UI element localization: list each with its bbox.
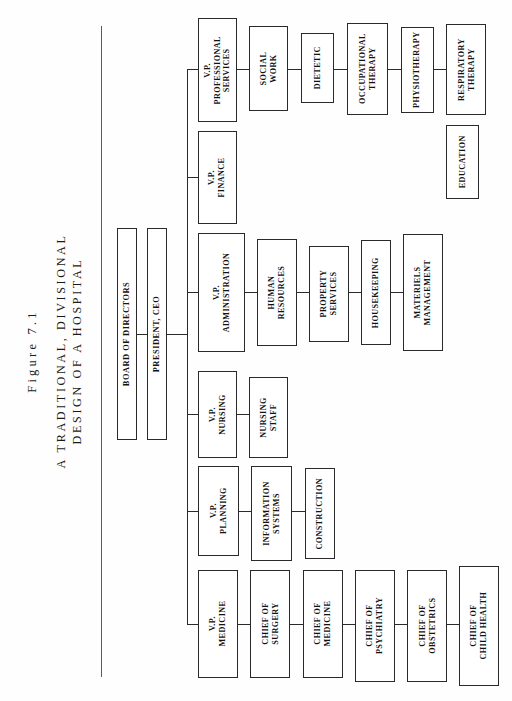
node-chief-of-surgery[interactable]: CHIEF OF SURGERY: [250, 570, 290, 678]
connector-administration-human-resources: [245, 292, 257, 293]
connector-spine-vp-professional: [187, 69, 198, 70]
connector-chief-medicine-chief-psychiatry: [343, 624, 355, 625]
node-label: CHIEF OF CHILD HEALTH: [469, 592, 488, 660]
connector-planning-information-systems: [239, 511, 251, 512]
connector-property-housekeeping: [349, 292, 361, 293]
node-label: CHIEF OF OBSTETRICS: [417, 598, 436, 654]
connector-human-resources-property: [297, 292, 309, 293]
connector-spine-vp-administration: [187, 292, 198, 293]
connector-spine-vp-planning: [187, 511, 198, 512]
node-vp-planning[interactable]: V.P. PLANNING: [198, 466, 239, 556]
connector-occupational-physiotherapy: [388, 69, 401, 70]
node-label: CHIEF OF MEDICINE: [313, 601, 332, 647]
node-label: HOUSEKEEPING: [371, 257, 381, 328]
connector-information-systems-construction: [292, 511, 305, 512]
node-label: V.P. PROFESSIONAL SERVICES: [203, 36, 232, 104]
node-human-resources[interactable]: HUMAN RESOURCES: [257, 239, 297, 346]
node-label: CHIEF OF SURGERY: [260, 603, 279, 645]
node-president-ceo[interactable]: PRESIDENT, CEO: [147, 228, 167, 440]
node-chief-of-medicine[interactable]: CHIEF OF MEDICINE: [303, 570, 343, 678]
page-canvas: Figure 7.1 A TRADITIONAL, DIVISIONAL DES…: [0, 0, 512, 701]
node-label: PRESIDENT, CEO: [152, 296, 162, 373]
node-label: RESPIRATORY THERAPY: [456, 38, 475, 101]
node-materiels-management[interactable]: MATERIELS MANAGEMENT: [403, 234, 443, 351]
node-label: DIETETIC: [313, 46, 323, 89]
org-chart: BOARD OF DIRECTORS PRESIDENT, CEO V.P. P…: [0, 0, 512, 701]
node-chief-of-psychiatry[interactable]: CHIEF OF PSYCHIATRY: [355, 570, 395, 682]
node-label: NURSING STAFF: [259, 397, 278, 437]
connector-housekeeping-materiels: [391, 292, 403, 293]
node-board-of-directors[interactable]: BOARD OF DIRECTORS: [117, 228, 137, 440]
node-construction[interactable]: CONSTRUCTION: [305, 468, 335, 559]
node-physiotherapy[interactable]: PHYSIOTHERAPY: [401, 27, 434, 113]
node-nursing-staff[interactable]: NURSING STAFF: [249, 377, 288, 458]
node-label: EDUCATION: [458, 136, 468, 189]
node-label: CHIEF OF PSYCHIATRY: [365, 597, 384, 654]
connector-chief-obstetrics-chief-child-health: [447, 624, 459, 625]
node-respiratory-therapy[interactable]: RESPIRATORY THERAPY: [446, 24, 486, 115]
node-label: V.P. ADMINISTRATION: [212, 253, 231, 332]
node-vp-medicine[interactable]: V.P. MEDICINE: [198, 570, 238, 678]
connector-chief-psychiatry-chief-obstetrics: [395, 624, 407, 625]
node-dietetic[interactable]: DIETETIC: [301, 33, 334, 103]
node-label: CONSTRUCTION: [315, 478, 325, 550]
node-vp-professional-services[interactable]: V.P. PROFESSIONAL SERVICES: [198, 18, 237, 122]
connector-social-work-dietetic: [288, 69, 301, 70]
connector-vp-spine: [187, 69, 188, 624]
node-label: OCCUPATIONAL THERAPY: [358, 34, 377, 105]
node-property-services[interactable]: PROPERTY SERVICES: [309, 246, 349, 342]
node-label: HUMAN RESOURCES: [267, 266, 286, 320]
node-label: PHYSIOTHERAPY: [413, 32, 423, 108]
node-vp-nursing[interactable]: V.P. NURSING: [198, 371, 237, 458]
node-education[interactable]: EDUCATION: [446, 125, 479, 199]
node-label: V.P. PLANNING: [209, 488, 228, 535]
connector-nursing-nursing-staff: [237, 414, 249, 415]
connector-professional-social-work: [237, 69, 249, 70]
node-label: PROPERTY SERVICES: [319, 270, 338, 318]
connector-president-spine: [167, 334, 187, 335]
node-label: BOARD OF DIRECTORS: [122, 282, 132, 386]
node-vp-administration[interactable]: V.P. ADMINISTRATION: [198, 233, 245, 352]
node-occupational-therapy[interactable]: OCCUPATIONAL THERAPY: [347, 23, 388, 115]
node-chief-of-child-health[interactable]: CHIEF OF CHILD HEALTH: [459, 566, 499, 686]
node-housekeeping[interactable]: HOUSEKEEPING: [361, 240, 391, 345]
node-label: V.P. MEDICINE: [208, 601, 227, 647]
node-label: INFORMATION SYSTEMS: [262, 481, 281, 546]
node-information-systems[interactable]: INFORMATION SYSTEMS: [251, 466, 292, 561]
connector-spine-vp-medicine: [187, 624, 198, 625]
node-label: MATERIELS MANAGEMENT: [413, 260, 432, 326]
connector-spine-vp-finance: [187, 177, 198, 178]
connector-physiotherapy-respiratory: [434, 69, 446, 70]
node-chief-of-obstetrics[interactable]: CHIEF OF OBSTETRICS: [407, 570, 447, 682]
node-label: V.P. NURSING: [208, 394, 227, 434]
connector-chief-surgery-chief-medicine: [290, 624, 303, 625]
node-social-work[interactable]: SOCIAL WORK: [249, 26, 288, 111]
connector-spine-vp-nursing: [187, 414, 198, 415]
node-label: V.P. FINANCE: [208, 157, 227, 197]
connector-dietetic-occupational: [334, 69, 347, 70]
connector-medicine-chief-surgery: [238, 624, 250, 625]
node-vp-finance[interactable]: V.P. FINANCE: [198, 131, 237, 224]
node-label: SOCIAL WORK: [259, 52, 278, 86]
